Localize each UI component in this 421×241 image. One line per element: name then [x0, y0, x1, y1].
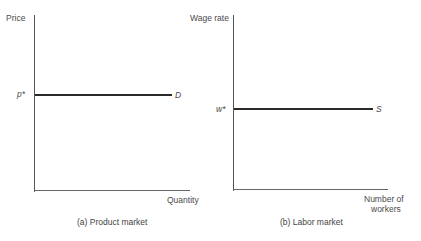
- curve-label-s: S: [376, 104, 382, 114]
- tick-label-p-star: p*: [17, 89, 25, 99]
- demand-curve-d: [35, 94, 172, 96]
- tick-label-w-star: w*: [216, 104, 225, 114]
- caption-a: (a) Product market: [77, 217, 147, 227]
- y-axis-b: [233, 15, 234, 191]
- caption-b: (b) Labor market: [280, 217, 343, 227]
- supply-curve-s: [234, 108, 373, 110]
- x-axis-label-number-of: Number of: [364, 194, 404, 204]
- x-axis-label-quantity: Quantity: [167, 195, 199, 205]
- x-axis-label-workers: workers: [371, 204, 401, 214]
- y-axis-label-wage-rate: Wage rate: [190, 13, 229, 23]
- y-axis-a: [34, 15, 35, 192]
- figure: Price p* D Quantity (a) Product market W…: [0, 0, 421, 241]
- y-axis-label-price: Price: [6, 13, 25, 23]
- x-axis-a: [34, 190, 190, 191]
- curve-label-d: D: [175, 90, 181, 100]
- x-axis-b: [233, 189, 388, 190]
